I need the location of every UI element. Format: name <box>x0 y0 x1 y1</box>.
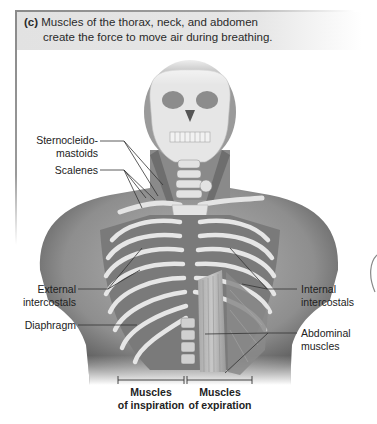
label-external-intercostals: External intercostals <box>0 283 76 308</box>
label-internal-intercostals-line1: Internal <box>301 283 377 296</box>
label-scalenes: Scalenes <box>20 164 98 177</box>
label-sternocleidomastoids: Sternocleido- mastoids <box>20 134 98 159</box>
label-diaphragm: Diaphragm <box>0 319 76 332</box>
label-internal-intercostals-line2: intercostals <box>301 296 377 309</box>
label-abdominal-muscles-line2: muscles <box>301 340 377 353</box>
group-label-expiration-line2: of expiration <box>182 399 258 412</box>
label-sternocleidomastoids-line2: mastoids <box>20 147 98 160</box>
label-external-intercostals-line2: intercostals <box>0 296 76 309</box>
label-external-intercostals-line1: External <box>0 283 76 296</box>
label-sternocleidomastoids-line1: Sternocleido- <box>20 134 98 147</box>
group-label-inspiration-line2: of inspiration <box>112 399 190 412</box>
group-label-inspiration-line1: Muscles <box>112 386 190 399</box>
group-label-expiration-line1: Muscles <box>182 386 258 399</box>
anatomy-illustration <box>0 0 377 424</box>
bottom-fade <box>60 360 320 388</box>
group-label-expiration: Muscles of expiration <box>182 386 258 412</box>
skull <box>140 55 240 164</box>
label-abdominal-muscles-line1: Abdominal <box>301 327 377 340</box>
group-label-inspiration: Muscles of inspiration <box>112 386 190 412</box>
label-abdominal-muscles: Abdominal muscles <box>301 327 377 352</box>
label-internal-intercostals: Internal intercostals <box>301 283 377 308</box>
